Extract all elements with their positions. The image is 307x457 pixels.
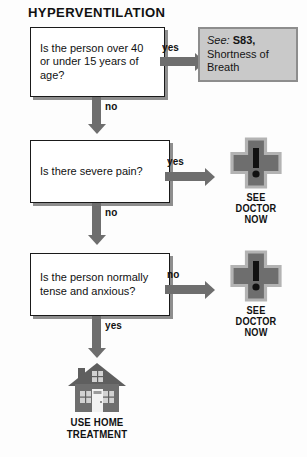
- branch-label-2-no: no: [105, 206, 117, 218]
- decision-box-2-text: Is there severe pain?: [31, 165, 152, 179]
- house-icon: [66, 362, 128, 414]
- outcome-see-doctor-2-label: SEE DOCTOR NOW: [222, 305, 290, 339]
- branch-label-3-yes: yes: [105, 319, 122, 331]
- reference-description: Shortness of Breath: [207, 48, 269, 74]
- decision-box-3-text: Is the person normally tense and anxious…: [31, 271, 157, 298]
- branch-label-1-no: no: [105, 100, 117, 112]
- decision-box-2[interactable]: Is there severe pain?: [30, 140, 170, 203]
- branch-label-2-yes: yes: [167, 155, 184, 167]
- branch-label-3-no: no: [167, 268, 179, 280]
- medical-cross-alert-icon: [230, 250, 282, 302]
- branch-label-1-yes: yes: [162, 41, 179, 53]
- decision-box-1-text: Is the person over 40 or under 15 years …: [31, 42, 152, 83]
- decision-box-1[interactable]: Is the person over 40 or under 15 years …: [30, 27, 165, 97]
- outcome-use-home-treatment[interactable]: USE HOME TREATMENT: [45, 362, 149, 441]
- reference-see-word: See:: [207, 34, 230, 46]
- outcome-use-home-treatment-label: USE HOME TREATMENT: [49, 417, 145, 441]
- outcome-see-doctor-2[interactable]: SEE DOCTOR NOW: [219, 250, 293, 339]
- reference-box-text: See: S83, Shortness of Breath: [207, 34, 289, 75]
- reference-code: S83,: [233, 34, 256, 46]
- reference-box[interactable]: See: S83, Shortness of Breath: [198, 27, 298, 82]
- medical-cross-alert-icon: [230, 137, 282, 189]
- page-title: HYPERVENTILATION: [28, 5, 165, 20]
- decision-box-3[interactable]: Is the person normally tense and anxious…: [30, 253, 170, 316]
- outcome-see-doctor-1[interactable]: SEE DOCTOR NOW: [219, 137, 293, 226]
- flowchart-page: HYPERVENTILATION Is the person over 40 o…: [0, 0, 307, 457]
- outcome-see-doctor-1-label: SEE DOCTOR NOW: [222, 192, 290, 226]
